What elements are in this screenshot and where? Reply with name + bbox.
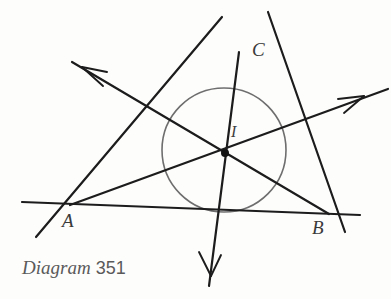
vertex-label-a: A bbox=[62, 211, 74, 230]
arrowhead-down-icon bbox=[199, 252, 221, 276]
incenter-point bbox=[221, 149, 229, 157]
bisector-from-c bbox=[209, 52, 239, 286]
vertex-label-c: C bbox=[252, 40, 265, 59]
incenter-label: I bbox=[231, 124, 236, 140]
figure-caption: Diagram351 bbox=[22, 258, 126, 277]
caption-number: 351 bbox=[96, 258, 126, 278]
diagram-canvas bbox=[0, 0, 391, 299]
bisector-from-a bbox=[70, 89, 388, 205]
arrowhead-right-icon bbox=[338, 96, 364, 113]
vertex-label-b: B bbox=[312, 218, 324, 237]
caption-word: Diagram bbox=[22, 257, 91, 278]
geometry-diagram-figure: A B C I Diagram351 bbox=[0, 0, 391, 299]
